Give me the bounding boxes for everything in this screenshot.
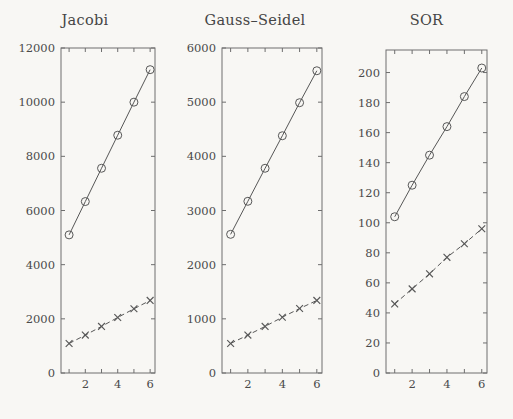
data-point-cross-marker <box>444 254 451 261</box>
data-point-cross-marker <box>262 323 269 330</box>
y-tick-label: 2000 <box>187 258 216 272</box>
y-tick-label: 3000 <box>187 204 216 218</box>
y-tick-label: 6000 <box>187 41 216 55</box>
x-tick-label: 2 <box>244 377 251 391</box>
data-point-circle-marker <box>313 67 321 75</box>
y-tick-label: 140 <box>358 156 380 170</box>
data-point-cross-marker <box>244 332 251 339</box>
y-tick-label: 12000 <box>18 41 55 55</box>
y-tick-label: 2000 <box>26 312 55 326</box>
y-tick-label: 200 <box>358 66 380 80</box>
x-tick-label: 2 <box>82 377 89 391</box>
data-point-cross-marker <box>296 305 303 312</box>
data-point-cross-marker <box>98 323 105 330</box>
series-line-cross-dashed <box>231 300 317 343</box>
axis-frame <box>386 50 487 373</box>
data-point-cross-marker <box>409 285 416 292</box>
data-point-cross-marker <box>147 297 154 304</box>
data-point-circle-marker <box>227 230 235 238</box>
figure-root: Jacobi 020004000600080001000012000246 Ga… <box>0 0 513 419</box>
y-tick-label: 8000 <box>26 149 55 163</box>
data-point-cross-marker <box>313 297 320 304</box>
y-tick-label: 4000 <box>187 149 216 163</box>
series-line-circle-solid <box>395 68 482 217</box>
x-tick-label: 2 <box>408 377 415 391</box>
y-tick-label: 0 <box>48 366 55 380</box>
data-point-cross-marker <box>82 332 89 339</box>
data-point-cross-marker <box>426 270 433 277</box>
y-tick-label: 160 <box>358 126 380 140</box>
data-point-cross-marker <box>279 314 286 321</box>
data-point-cross-marker <box>461 240 468 247</box>
y-tick-label: 0 <box>373 366 380 380</box>
y-tick-label: 1000 <box>187 312 216 326</box>
series-line-circle-solid <box>231 71 317 235</box>
x-tick-label: 4 <box>114 377 121 391</box>
x-tick-label: 4 <box>443 377 450 391</box>
y-tick-label: 120 <box>358 186 380 200</box>
axis-frame <box>61 48 155 373</box>
series-line-circle-solid <box>69 70 150 235</box>
plot-area-jacobi: 020004000600080001000012000246 <box>0 0 170 419</box>
y-tick-label: 80 <box>365 246 380 260</box>
data-point-cross-marker <box>66 340 73 347</box>
data-point-cross-marker <box>114 314 121 321</box>
data-point-cross-marker <box>227 340 234 347</box>
y-tick-label: 20 <box>365 336 380 350</box>
data-point-cross-marker <box>391 300 398 307</box>
y-tick-label: 10000 <box>18 95 55 109</box>
axis-frame <box>222 48 322 373</box>
y-tick-label: 60 <box>365 276 380 290</box>
data-point-cross-marker <box>478 225 485 232</box>
series-line-cross-dashed <box>395 229 482 304</box>
y-tick-label: 0 <box>209 366 216 380</box>
y-tick-label: 100 <box>358 216 380 230</box>
chart-panel-sor: SOR 020406080100120140160180200246 <box>340 0 513 419</box>
y-tick-label: 4000 <box>26 258 55 272</box>
y-tick-label: 40 <box>365 306 380 320</box>
x-tick-label: 6 <box>146 377 153 391</box>
x-tick-label: 6 <box>313 377 320 391</box>
series-line-cross-dashed <box>69 300 150 343</box>
x-tick-label: 6 <box>478 377 485 391</box>
chart-panel-gauss-seidel: Gauss–Seidel 010002000300040005000600024… <box>170 0 340 419</box>
plot-area-sor: 020406080100120140160180200246 <box>340 0 513 419</box>
data-point-circle-marker <box>391 213 399 221</box>
data-point-cross-marker <box>131 305 138 312</box>
y-tick-label: 6000 <box>26 204 55 218</box>
y-tick-label: 180 <box>358 96 380 110</box>
plot-area-gauss-seidel: 0100020003000400050006000246 <box>170 0 340 419</box>
x-tick-label: 4 <box>279 377 286 391</box>
y-tick-label: 5000 <box>187 95 216 109</box>
chart-panel-jacobi: Jacobi 020004000600080001000012000246 <box>0 0 170 419</box>
